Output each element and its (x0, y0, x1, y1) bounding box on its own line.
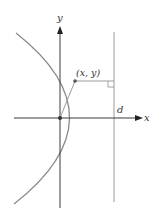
y-axis-arrow-icon (57, 26, 63, 34)
right-angle-marker-icon (108, 81, 114, 87)
directrix-label: d (117, 104, 123, 115)
parabola-point (73, 79, 77, 83)
y-axis-label: y (56, 12, 63, 23)
point-label: (x, y) (76, 67, 100, 78)
x-axis-label: x (144, 112, 150, 123)
parabola-diagram: y x (x, y) d (0, 0, 161, 219)
x-axis-arrow-icon (135, 115, 143, 121)
diagram-canvas: y x (x, y) d (0, 0, 161, 219)
focus-point (58, 116, 62, 120)
